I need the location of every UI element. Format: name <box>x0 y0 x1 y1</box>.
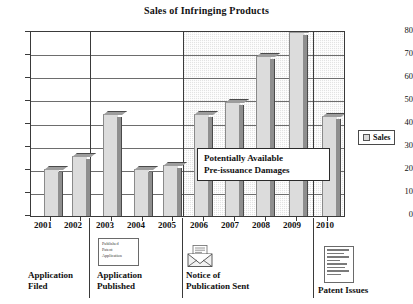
envelope-icon <box>187 245 213 267</box>
phase-1-line-2: Filed <box>28 281 73 292</box>
phase-3-line-1: Notice of <box>186 270 249 281</box>
phase-label-notice-of-publication-sent: Notice of Publication Sent <box>186 270 249 292</box>
x-tick-label-2004: 2004 <box>119 220 153 230</box>
y-tick-label-50: 50 <box>389 95 413 104</box>
patent-doc-line <box>327 260 340 262</box>
y-tick-label-80: 80 <box>389 26 413 35</box>
patent-doc-line <box>327 274 341 276</box>
x-axis-labels: 2001 2002 2003 2004 2005 2006 2007 2008 … <box>0 220 413 234</box>
bar-2009-side <box>303 35 308 216</box>
bar-2008-side <box>270 59 275 216</box>
bar-2003 <box>103 114 118 216</box>
bar-2002-side <box>86 159 91 216</box>
bar-2003-side <box>117 117 122 216</box>
x-tick-label-2005: 2005 <box>150 220 184 230</box>
plot-area <box>30 31 345 217</box>
bar-2010-side <box>336 119 341 216</box>
legend-label-sales: Sales <box>373 133 390 142</box>
patent-doc-line <box>327 253 344 255</box>
chart-legend[interactable]: Sales <box>358 130 395 145</box>
y-tick-label-0: 0 <box>389 210 413 219</box>
x-tick-label-2002: 2002 <box>56 220 90 230</box>
bar-2004-top <box>134 166 158 170</box>
phase-label-application-filed: Application Filed <box>28 270 73 292</box>
bar-2001-side <box>58 172 63 216</box>
callout-line-1: Potentially Available <box>204 152 324 164</box>
bar-2003-top <box>103 111 127 115</box>
bar-2009 <box>289 32 304 216</box>
phase-label-application-published: Application Published <box>97 270 142 292</box>
x-tick-label-2009: 2009 <box>275 220 309 230</box>
bar-2002-top <box>72 153 96 157</box>
pre-issuance-damages-callout: Potentially Available Pre-issuance Damag… <box>197 148 330 181</box>
patent-doc-line <box>327 256 349 258</box>
y-tick-label-70: 70 <box>389 49 413 58</box>
legend-swatch-sales <box>363 134 370 141</box>
bar-2005 <box>163 165 178 216</box>
phase-2-line-1: Application <box>97 270 142 281</box>
phase-3-line-2: Publication Sent <box>186 281 249 292</box>
phase-label-patent-issues: Patent Issues <box>318 285 368 296</box>
plot-separator-after-2005 <box>183 32 184 216</box>
published-patent-application-icon: Published Patent Application <box>98 238 139 266</box>
timeline-divider-3 <box>313 218 314 298</box>
y-tick-label-10: 10 <box>389 187 413 196</box>
patent-doc-line <box>327 263 347 265</box>
bar-2010-top <box>322 113 345 117</box>
plot-separator-after-2009 <box>313 32 314 216</box>
timeline-divider-2 <box>182 218 183 298</box>
bar-2005-side <box>177 168 182 216</box>
callout-line-2: Pre-issuance Damages <box>204 164 324 176</box>
y-tick-label-20: 20 <box>389 164 413 173</box>
x-tick-label-2007: 2007 <box>213 220 247 230</box>
chart-title: Sales of Infringing Products <box>0 5 413 16</box>
bar-2001-top <box>44 166 68 170</box>
y-tick-label-60: 60 <box>389 72 413 81</box>
x-tick-label-2003: 2003 <box>88 220 122 230</box>
bar-2008 <box>256 56 271 216</box>
patent-doc-line <box>327 270 349 272</box>
patent-document-icon <box>324 246 354 283</box>
bar-2004-side <box>148 172 153 216</box>
phase-1-line-1: Application <box>28 270 73 281</box>
y-tick-label-40: 40 <box>389 118 413 127</box>
x-tick-label-2006: 2006 <box>182 220 216 230</box>
patent-doc-line <box>327 267 345 269</box>
phase-2-line-2: Published <box>97 281 142 292</box>
phase-4-line-1: Patent Issues <box>318 285 368 296</box>
x-tick-label-2001: 2001 <box>26 220 60 230</box>
x-tick-label-2008: 2008 <box>244 220 278 230</box>
patent-doc-line <box>327 249 349 251</box>
sales-of-infringing-products-chart: Sales of Infringing Products 80 70 60 50… <box>0 0 413 304</box>
bar-2001 <box>44 169 59 216</box>
published-app-doc-line-3: Application <box>102 253 135 259</box>
timeline-divider-1 <box>89 218 90 298</box>
bar-2002 <box>72 156 87 216</box>
bar-2004 <box>134 169 149 216</box>
